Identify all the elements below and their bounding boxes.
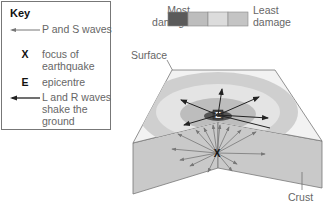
focus-x-icon: X (10, 48, 40, 60)
epicentre-e-icon: E (10, 76, 40, 88)
focus-marker: X (214, 148, 221, 159)
crust-left-face (133, 122, 218, 194)
key-label-epicentre: epicentre (42, 76, 112, 88)
most-damage-label: Most damage (145, 4, 190, 28)
epicentre-marker: E (215, 110, 221, 120)
surface-wave-arrows (181, 89, 270, 128)
key-label-focus: focus of earthquake (42, 48, 112, 72)
key-item-epicentre: E epicentre (2, 76, 112, 90)
surface-face (133, 70, 322, 143)
key-item-l-r-waves: L and R waves shake the ground (2, 91, 112, 129)
least-damage-label: Least damage (253, 4, 298, 28)
key-item-p-s-waves: P and S waves (2, 23, 112, 49)
key-title: Key (10, 7, 30, 19)
body-wave-arrows (172, 125, 265, 172)
crust-label: Crust (288, 191, 313, 203)
key-label-p-s-waves: P and S waves (42, 23, 112, 35)
key-item-focus: X focus of earthquake (2, 48, 112, 74)
crust-right-face (218, 122, 322, 188)
key-label-l-r-waves: L and R waves shake the ground (42, 91, 112, 127)
key-box: Key P and S waves X focus of earthquake … (1, 1, 111, 130)
surface-label: Surface (131, 49, 167, 61)
